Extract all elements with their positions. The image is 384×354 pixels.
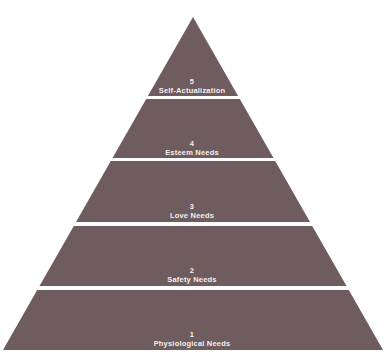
tier-3-number: 3: [0, 202, 384, 211]
tier-2-label: 2 Safety Needs: [0, 266, 384, 284]
tier-1-number: 1: [0, 330, 384, 339]
tier-5-number: 5: [0, 77, 384, 86]
tier-3-title: Love Needs: [0, 211, 384, 220]
tier-2-number: 2: [0, 266, 384, 275]
tier-3-label: 3 Love Needs: [0, 202, 384, 220]
tier-1-title: Physiological Needs: [0, 339, 384, 348]
tier-4-number: 4: [0, 139, 384, 148]
tier-2-title: Safety Needs: [0, 275, 384, 284]
tier-5-label: 5 Self-Actualization: [0, 77, 384, 95]
tier-5-title: Self-Actualization: [0, 86, 384, 95]
tier-4-label: 4 Esteem Needs: [0, 139, 384, 157]
pyramid-diagram: [0, 0, 384, 354]
tier-1-label: 1 Physiological Needs: [0, 330, 384, 348]
tier-4-title: Esteem Needs: [0, 148, 384, 157]
